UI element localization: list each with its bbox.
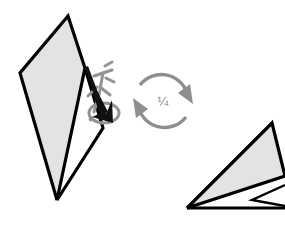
origami-diagram: ¼ bbox=[0, 0, 285, 226]
quarter-turn-rotate-symbol: ¼ bbox=[133, 74, 193, 127]
rotate-arc-top bbox=[140, 74, 187, 93]
diagram-canvas: ¼ bbox=[0, 0, 285, 226]
right-folded-model bbox=[187, 123, 285, 208]
quarter-turn-label: ¼ bbox=[158, 94, 169, 109]
reference-point-dot bbox=[89, 117, 94, 122]
rotate-arc-bottom bbox=[139, 109, 186, 128]
